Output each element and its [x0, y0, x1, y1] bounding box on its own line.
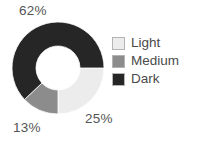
- legend-label-light: Light: [131, 36, 160, 50]
- donut-chart-figure: 62% 25% 13% Light Medium Dark: [0, 0, 198, 141]
- data-label-medium: 13%: [13, 121, 41, 135]
- legend-swatch-light-icon: [112, 37, 125, 50]
- donut-slice-group: [12, 22, 104, 114]
- legend-item-medium[interactable]: Medium: [112, 53, 179, 69]
- legend-item-light[interactable]: Light: [112, 35, 179, 51]
- legend-label-medium: Medium: [131, 54, 179, 68]
- data-label-light: 25%: [85, 112, 113, 126]
- donut-slice-light[interactable]: [58, 68, 104, 114]
- chart-legend: Light Medium Dark: [112, 35, 179, 87]
- legend-swatch-dark-icon: [112, 73, 125, 86]
- legend-label-dark: Dark: [131, 72, 160, 86]
- legend-item-dark[interactable]: Dark: [112, 71, 179, 87]
- legend-swatch-medium-icon: [112, 55, 125, 68]
- data-label-dark: 62%: [19, 4, 47, 18]
